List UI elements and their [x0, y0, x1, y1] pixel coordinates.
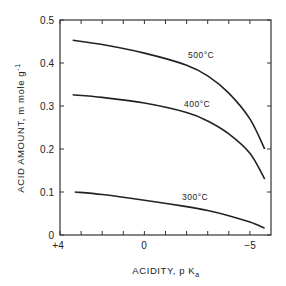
curve-500c: [73, 40, 265, 149]
y-tick-label: 0.2: [40, 144, 54, 155]
chart: 500°C 400°C 300°C 0.5 0.4 0.3 0.2 0.1 0 …: [0, 0, 286, 286]
y-tick-label: 0.3: [40, 101, 54, 112]
curve-400c: [73, 95, 265, 179]
y-tick-label: 0.1: [40, 187, 54, 198]
label-500c: 500°C: [188, 50, 214, 60]
x-tick-label: +4: [52, 240, 64, 251]
y-tick-label: 0.4: [40, 58, 54, 69]
x-ticks: [60, 20, 250, 235]
x-tick-label: 0: [141, 240, 147, 251]
curve-300c: [75, 192, 265, 228]
y-tick-label: 0.5: [40, 15, 54, 26]
x-tick-label: −5: [244, 240, 256, 251]
x-axis-label: ACIDITY, p Ka: [132, 265, 200, 278]
label-400c: 400°C: [184, 99, 210, 109]
y-axis-label: ACID AMOUNT, m mole g-1: [14, 63, 26, 192]
label-300c: 300°C: [182, 192, 208, 202]
